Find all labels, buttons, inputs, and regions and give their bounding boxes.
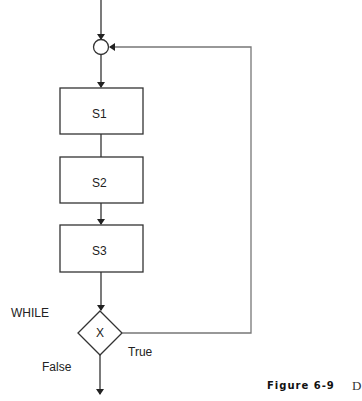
- s2-label: S2: [92, 176, 107, 190]
- while-label: WHILE: [11, 306, 49, 320]
- junction-circle: [94, 40, 109, 55]
- flowchart-canvas: [0, 0, 362, 401]
- figure-caption: Figure 6-9: [267, 380, 335, 391]
- decision-label: X: [96, 326, 104, 340]
- s3-label: S3: [92, 244, 107, 258]
- false-label: False: [42, 360, 71, 374]
- s1-label: S1: [92, 107, 107, 121]
- true-label: True: [128, 345, 152, 359]
- figure-caption-trailing: D: [352, 378, 361, 394]
